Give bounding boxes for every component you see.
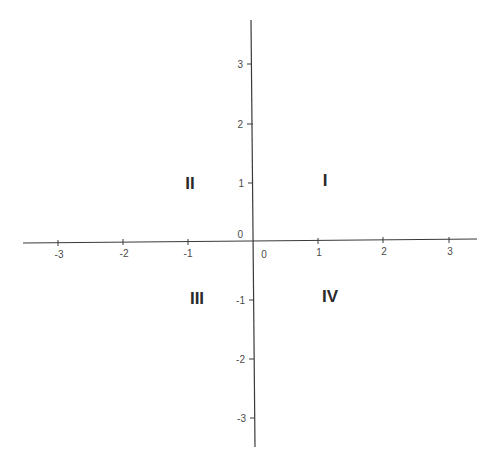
x-tick-label: -3	[55, 249, 64, 260]
quadrant-labels: I II III IV	[185, 171, 338, 308]
y-tick-label: -1	[236, 295, 245, 306]
y-tick-label: 2	[237, 119, 243, 130]
y-tick-label: 3	[237, 59, 243, 70]
x-tick-label: -1	[184, 248, 193, 259]
y-origin-label: 0	[237, 229, 243, 240]
quadrant-label-iii: III	[190, 289, 204, 308]
y-tick-label: -3	[237, 413, 246, 424]
coordinate-plane: -3 -2 -1 1 2 3 0 3 2 1 -1 -2 -3 0 I II I…	[0, 0, 497, 470]
y-tick-label: -2	[236, 354, 245, 365]
y-axis	[251, 20, 255, 447]
x-axis	[23, 239, 477, 243]
x-tick-label: 2	[381, 246, 387, 257]
x-axis-tick-labels: -3 -2 -1 1 2 3 0	[55, 246, 454, 260]
x-tick-label: 1	[316, 247, 322, 258]
y-tick-label: 1	[238, 178, 244, 189]
x-origin-label: 0	[261, 249, 267, 260]
quadrant-label-ii: II	[185, 174, 194, 193]
x-tick-label: 3	[447, 246, 453, 257]
quadrant-label-i: I	[323, 171, 328, 190]
x-tick-label: -2	[120, 248, 129, 259]
quadrant-label-iv: IV	[322, 287, 339, 306]
